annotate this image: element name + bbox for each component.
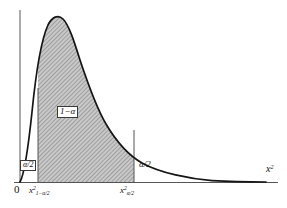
x-axis-label-superscript: 2 (270, 163, 273, 170)
tick-label-left-critical: x21−α/2 (29, 186, 50, 195)
chi-squared-distribution-figure: 1−α α/2 α/2 0 x21−α/2 x2α/2 x2 (0, 0, 287, 208)
right-tail-area-label: α/2 (139, 160, 151, 169)
tick-right-subscript: α/2 (127, 190, 134, 196)
left-tail-area-label: α/2 (20, 160, 36, 171)
tick-left-subscript: 1−α/2 (36, 190, 50, 196)
chi-squared-plot-svg (0, 0, 287, 208)
tick-label-right-critical: x2α/2 (120, 186, 134, 195)
x-axis-label: x2 (266, 164, 274, 174)
confidence-level-label: 1−α (57, 106, 78, 118)
origin-label: 0 (14, 184, 20, 195)
